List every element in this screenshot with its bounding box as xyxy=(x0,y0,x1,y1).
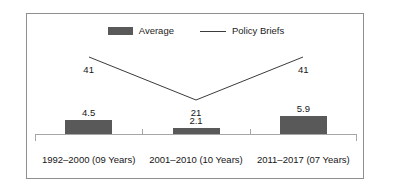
bar-value-label-0: 4.5 xyxy=(82,108,95,118)
chart-plot-area: 41 21 41 4.5 2.1 5.9 1992–2000 (09 Years… xyxy=(27,14,365,180)
bar-2[interactable] xyxy=(280,116,327,134)
category-label-2: 2011–2017 (07 Years) xyxy=(250,155,357,165)
chart-plot-frame: Average Policy Briefs 41 21 41 4.5 xyxy=(26,13,364,179)
x-axis-tick-2 xyxy=(250,129,251,135)
x-axis-right-endcap xyxy=(356,135,357,141)
bar-value-label-1: 2.1 xyxy=(189,116,202,126)
category-label-0: 1992–2000 (09 Years) xyxy=(35,155,142,165)
bar-0[interactable] xyxy=(65,120,112,134)
x-axis-left-endcap xyxy=(35,135,36,141)
x-axis-category-labels: 1992–2000 (09 Years) 2001–2010 (10 Years… xyxy=(35,155,357,165)
x-axis-tick-1 xyxy=(142,129,143,135)
x-axis-line xyxy=(35,134,357,135)
chart-container: Average Policy Briefs 41 21 41 4.5 xyxy=(0,0,393,194)
bar-value-label-2: 5.9 xyxy=(297,104,310,114)
category-label-1: 2001–2010 (10 Years) xyxy=(142,155,249,165)
